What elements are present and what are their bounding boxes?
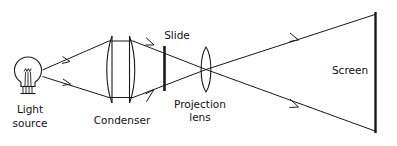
- ray-upper-converging: [133, 41, 206, 70]
- ray-upper-source: [43, 41, 110, 70]
- bulb-filament-coil: [24, 69, 31, 72]
- bulb-filament-stem-right: [31, 72, 32, 86]
- bulb-filament-stem-left: [25, 72, 26, 86]
- label-light-source-line1: Light: [17, 103, 43, 115]
- ray-group-condenser-to-lens: [133, 41, 206, 98]
- arrow-head-upper-right: [290, 33, 299, 42]
- label-screen: Screen: [332, 64, 368, 76]
- label-projection-lens-line1: Projection: [174, 98, 226, 110]
- condenser-lens-2-curve-right: [130, 36, 135, 103]
- arrow-head-upper-middle: [146, 38, 155, 46]
- label-projection-lens-line2: lens: [189, 111, 211, 123]
- ray-upper-diverging: [206, 15, 375, 70]
- condenser-lens-1-curve-left: [107, 36, 112, 103]
- optics-diagram: Light source Condenser Slide Projection …: [0, 0, 397, 146]
- ray-lower-source: [43, 77, 110, 98]
- arrow-head-lower-right: [290, 99, 299, 108]
- optics-diagram-canvas: Light source Condenser Slide Projection …: [0, 0, 397, 146]
- ray-lower-diverging: [206, 70, 375, 132]
- ray-lower-converging: [133, 70, 206, 98]
- condenser-lens-group: [107, 36, 135, 103]
- ray-arrow-group-right: [290, 33, 299, 108]
- arrow-head-lower-left: [63, 79, 71, 86]
- ray-group-source-to-condenser: [43, 41, 110, 98]
- arrow-head-lower-middle: [146, 90, 155, 102]
- label-condenser: Condenser: [94, 114, 151, 126]
- light-bulb-icon: [15, 57, 42, 94]
- label-slide: Slide: [164, 29, 190, 41]
- label-light-source-line2: source: [13, 117, 48, 129]
